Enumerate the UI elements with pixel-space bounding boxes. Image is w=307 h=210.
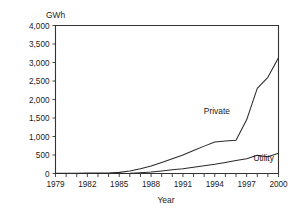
x-axis-tick-label: 1979 xyxy=(46,180,65,189)
y-axis-unit-label: GWh xyxy=(46,10,65,20)
y-axis-tick-labels: 05001,0001,5002,0002,5003,0003,5004,000 xyxy=(29,22,50,179)
x-axis-tick-label: 1991 xyxy=(174,180,193,189)
x-axis-tick-label: 1982 xyxy=(78,180,97,189)
x-axis-tick-labels: 19791982198519881991199419972000 xyxy=(46,180,288,189)
x-axis-title: Year xyxy=(158,195,175,205)
y-axis-tick-label: 3,000 xyxy=(29,59,50,68)
x-axis-tick-label: 1988 xyxy=(142,180,161,189)
series-line-private xyxy=(56,58,279,174)
chart-figure: GWh 05001,0001,5002,0002,5003,0003,5004,… xyxy=(0,0,307,210)
x-axis-tick-label: 1997 xyxy=(238,180,257,189)
y-axis-tick-label: 3,500 xyxy=(29,40,50,49)
series-label-private: Private xyxy=(204,106,230,116)
series-line-utility xyxy=(56,153,279,173)
line-chart: GWh 05001,0001,5002,0002,5003,0003,5004,… xyxy=(0,0,307,210)
y-axis-tick-label: 4,000 xyxy=(29,22,50,31)
y-axis-tick-label: 500 xyxy=(36,151,50,160)
x-axis-tick-label: 2000 xyxy=(269,180,288,189)
x-axis-tick-label: 1994 xyxy=(206,180,225,189)
x-axis-tick-label: 1985 xyxy=(110,180,129,189)
y-axis-tick-label: 1,500 xyxy=(29,114,50,123)
y-axis-tick-label: 0 xyxy=(45,170,50,179)
series-label-utility: Utility xyxy=(253,153,274,163)
y-axis-tick-label: 2,500 xyxy=(29,77,50,86)
plot-frame xyxy=(56,26,279,174)
y-axis-tick-label: 2,000 xyxy=(29,96,50,105)
data-series-group xyxy=(56,58,279,174)
y-axis-tick-label: 1,000 xyxy=(29,133,50,142)
